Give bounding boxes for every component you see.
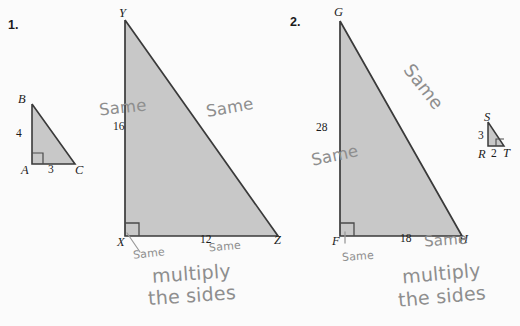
- vertex-label-b: B: [18, 92, 26, 107]
- vertex-label-g: G: [334, 5, 343, 20]
- problem-number-1: 1.: [8, 18, 18, 32]
- handwriting-same-bottom-left-2: Same: [342, 249, 375, 264]
- vertex-label-c: C: [75, 163, 83, 178]
- handwriting-note-line2-1: the sides: [147, 281, 236, 309]
- vertex-label-s: S: [484, 110, 490, 125]
- large-triangle-fgh-shape: [330, 12, 475, 250]
- pencil-tick-mark-2: [341, 231, 351, 245]
- vertex-label-y: Y: [119, 6, 126, 21]
- side-length-xy: 16: [113, 120, 125, 132]
- handwriting-same-bottom-right-2: Same: [423, 230, 468, 251]
- vertex-label-t: T: [503, 146, 510, 161]
- handwriting-same-bottom-right-1: Same: [208, 239, 241, 255]
- large-triangle-xyz-shape: [115, 10, 290, 250]
- vertex-label-z: Z: [274, 233, 281, 248]
- pencil-leader-line-1: [124, 232, 150, 254]
- side-length-fh: 18: [400, 232, 412, 244]
- vertex-label-f: F: [332, 234, 340, 249]
- worksheet-page: 1. B A C 4 3 Y X Z 16 12 Same Same Same …: [0, 0, 520, 326]
- side-length-rt: 2: [491, 147, 497, 159]
- problem-number-2: 2.: [290, 15, 300, 29]
- side-length-ac: 3: [48, 163, 54, 175]
- vertex-label-r: R: [478, 147, 486, 162]
- side-length-rs: 3: [478, 129, 484, 141]
- side-length-ab: 4: [16, 127, 22, 139]
- side-length-fg: 28: [316, 121, 328, 133]
- vertex-label-a: A: [21, 163, 29, 178]
